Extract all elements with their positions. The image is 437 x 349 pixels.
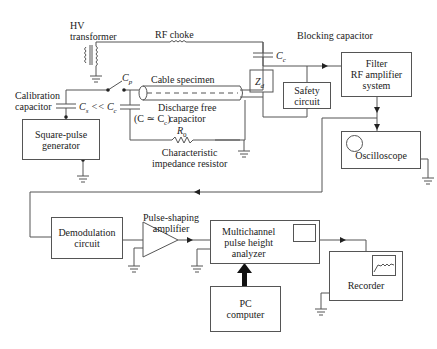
calibration-capacitor-label: Calibration capacitor	[15, 90, 60, 112]
cable-specimen-end	[139, 86, 147, 100]
cc-label: Cc	[276, 50, 286, 66]
multichannel-analyzer-label: Multichannel pulse height analyzer	[222, 226, 275, 259]
cs-relation-subscript: c	[114, 107, 117, 115]
analyzer-display-icon	[293, 224, 316, 242]
ground-icon-pulse-generator	[77, 176, 89, 182]
recorder-chart-icon	[372, 255, 397, 277]
ground-icon-transformer	[90, 76, 102, 82]
cs-relation-label: Cs << Cc	[79, 101, 117, 117]
square-pulse-generator-block: Square-pulse generator	[22, 119, 100, 160]
rf-choke-icon	[170, 41, 186, 43]
recorder-block: Recorder	[329, 251, 403, 301]
c-approx-label: (C ≃ Cc)	[134, 113, 171, 129]
r0-subscript: 0	[183, 131, 187, 139]
c-approx-text: (C ≃ C	[134, 113, 164, 124]
hv-transformer-label: HV transformer	[70, 20, 117, 42]
cc-symbol: C	[276, 50, 283, 61]
ground-icon-amplifier	[128, 266, 140, 272]
ground-icon-oscilloscope	[422, 178, 434, 184]
ground-icon-analyzer	[191, 266, 203, 272]
safety-circuit-block: Safety circuit	[283, 82, 331, 109]
pc-computer-block: PC computer	[210, 286, 281, 332]
hv-transformer-icon	[85, 42, 171, 76]
cable-specimen-label: Cable specimen	[151, 74, 215, 85]
recorder-label: Recorder	[348, 280, 385, 291]
ground-icon-recorder	[315, 309, 327, 315]
cp-symbol: C	[122, 72, 129, 83]
cp-label: Cp	[122, 72, 132, 88]
cs-relation-text: << C	[88, 101, 113, 112]
rf-choke-label: RF choke	[155, 29, 194, 40]
zd-label: Zd	[255, 76, 264, 92]
r0-label: R0	[177, 125, 187, 141]
oscilloscope-screen-icon	[346, 135, 363, 152]
cp-switch	[108, 81, 122, 90]
demodulation-circuit-block: Demodulation circuit	[51, 217, 123, 259]
cc-subscript: c	[283, 56, 286, 64]
cp-subscript: p	[129, 78, 133, 86]
c-approx-end: )	[167, 113, 170, 124]
characteristic-impedance-resistor-label: Characteristic impedance resistor	[152, 147, 227, 169]
zd-subscript: d	[261, 82, 265, 90]
oscilloscope-label: Oscilloscope	[355, 150, 407, 161]
multichannel-analyzer-block: Multichannel pulse height analyzer	[210, 220, 320, 264]
blocking-capacitor-label: Blocking capacitor	[297, 30, 373, 41]
oscilloscope-block: Oscilloscope	[341, 131, 421, 169]
ground-icon-r0	[238, 151, 250, 157]
cs-symbol: C	[79, 101, 86, 112]
pulse-shaping-amplifier-label: Pulse-shaping amplifier	[143, 212, 199, 234]
filter-rf-amplifier-block: Filter RF amplifier system	[341, 52, 412, 97]
